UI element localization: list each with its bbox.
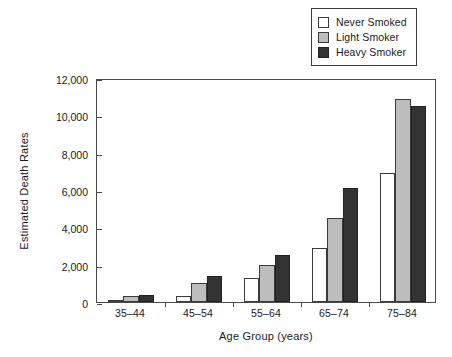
y-axis-title: Estimated Death Rates	[18, 79, 32, 303]
bar-light-3	[327, 218, 343, 302]
y-axis-tick-label: 0	[82, 298, 88, 310]
y-axis-tick	[97, 192, 102, 193]
legend-label-heavy-smoker: Heavy Smoker	[336, 47, 406, 58]
bar-heavy-1	[207, 276, 223, 302]
legend-label-light-smoker: Light Smoker	[336, 32, 399, 43]
legend-swatch-never-smoked	[318, 17, 329, 28]
bar-light-1	[191, 283, 207, 302]
y-axis-tick-label: 6,000	[62, 186, 88, 198]
x-axis-group-label: 35–44	[96, 307, 164, 319]
chart-legend: Never Smoked Light Smoker Heavy Smoker	[311, 8, 417, 66]
legend-item-light-smoker: Light Smoker	[318, 30, 407, 44]
bar-light-2	[259, 265, 275, 302]
legend-swatch-heavy-smoker	[318, 47, 329, 58]
x-axis-group-label: 65–74	[300, 307, 368, 319]
x-axis-title: Age Group (years)	[96, 330, 436, 342]
bar-heavy-4	[411, 106, 427, 302]
y-axis-tick	[97, 267, 102, 268]
y-axis-tick	[97, 117, 102, 118]
x-axis-group-label: 45–54	[164, 307, 232, 319]
y-axis-tick-label: 12,000	[56, 74, 88, 86]
legend-item-never-smoked: Never Smoked	[318, 15, 407, 29]
y-axis-tick-label: 4,000	[62, 223, 88, 235]
bar-heavy-0	[139, 295, 155, 302]
y-axis-tick	[97, 155, 102, 156]
bar-heavy-3	[343, 188, 359, 302]
y-axis-tick	[97, 229, 102, 230]
x-axis-group-label: 75–84	[368, 307, 436, 319]
bar-light-4	[395, 99, 411, 302]
legend-item-heavy-smoker: Heavy Smoker	[318, 45, 407, 59]
bar-light-0	[123, 296, 139, 302]
legend-swatch-light-smoker	[318, 32, 329, 43]
bar-never-0	[108, 300, 124, 302]
bar-never-1	[176, 296, 192, 302]
y-axis-tick-label: 2,000	[62, 261, 88, 273]
bar-chart-figure: Never Smoked Light Smoker Heavy Smoker E…	[0, 0, 452, 357]
bar-never-4	[380, 173, 396, 302]
y-axis-tick	[97, 80, 102, 81]
y-axis-tick-label: 10,000	[56, 111, 88, 123]
bar-heavy-2	[275, 255, 291, 302]
bar-never-2	[244, 278, 260, 302]
bar-never-3	[312, 248, 328, 302]
y-axis-tick-label: 8,000	[62, 149, 88, 161]
x-axis-group-label: 55–64	[232, 307, 300, 319]
legend-label-never-smoked: Never Smoked	[336, 17, 407, 28]
plot-area: 02,0004,0006,0008,00010,00012,000	[96, 79, 436, 303]
y-axis-tick	[97, 304, 102, 305]
